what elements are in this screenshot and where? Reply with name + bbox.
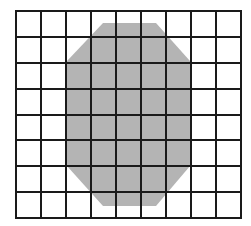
grid-diagram [0,0,251,226]
